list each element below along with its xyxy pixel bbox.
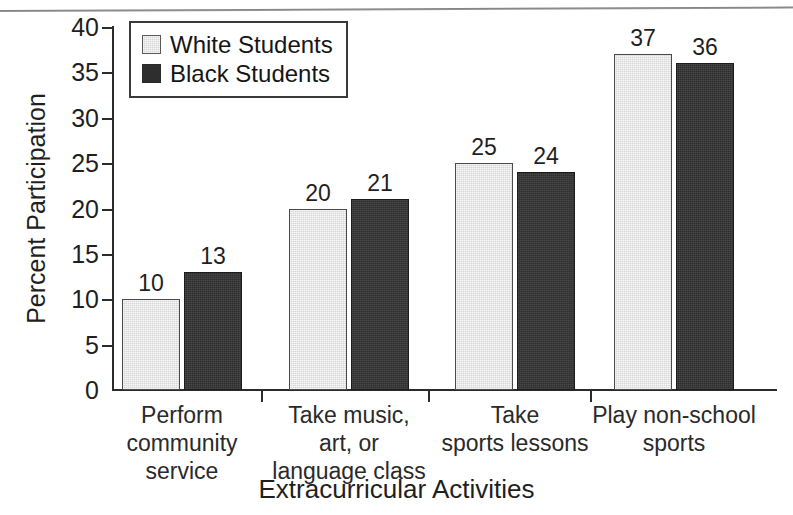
bar-black-group-2: 21 [351,199,409,390]
bar-black-group-4: 36 [676,63,734,390]
y-tick-label-40: 40 [71,15,99,40]
y-tick-label-35: 35 [71,60,99,85]
y-tick-mark-30 [102,118,113,120]
y-tick-label-5: 5 [85,332,99,357]
legend-item-black-students: Black Students [142,59,333,88]
y-tick-label-15: 15 [71,241,99,266]
bar-value-label: 24 [533,145,559,168]
y-tick-label-30: 30 [71,105,99,130]
bar-value-label: 20 [305,182,331,205]
category-label-4: Play non-schoolsports [569,401,779,457]
y-tick-label-10: 10 [71,287,99,312]
bar-value-label: 10 [138,272,164,295]
category-label-line: Play non-school [569,401,779,429]
y-tick-label-0: 0 [85,378,99,403]
bar-value-label: 36 [692,36,718,59]
black-students-swatch [142,64,161,83]
y-tick-mark-15 [102,254,113,256]
legend-label-white-students: White Students [170,33,333,57]
y-tick-mark-10 [102,299,113,301]
y-tick-label-20: 20 [71,196,99,221]
y-tick-label-25: 25 [71,151,99,176]
bar-chart-figure: Percent Participation 0510152025303540 1… [0,0,793,515]
x-axis-title: Extracurricular Activities [0,474,793,505]
bar-white-group-4: 37 [614,54,672,390]
bar-value-label: 13 [200,245,226,268]
scan-artifact-line [0,7,793,12]
chart-legend: White Students Black Students [129,21,348,98]
y-tick-mark-20 [102,209,113,211]
white-students-swatch [142,35,161,54]
bar-white-group-2: 20 [289,209,347,391]
y-axis-title: Percent Participation [14,27,58,390]
category-label-line: sports [569,429,779,457]
legend-item-white-students: White Students [142,30,333,59]
bar-black-group-3: 24 [517,172,575,390]
bar-white-group-3: 25 [455,163,513,390]
y-tick-mark-40 [102,27,113,29]
legend-label-black-students: Black Students [170,62,330,86]
bar-value-label: 37 [630,27,656,50]
bar-black-group-1: 13 [184,272,242,390]
bar-value-label: 25 [471,136,497,159]
y-tick-mark-5 [102,345,113,347]
bar-white-group-1: 10 [122,299,180,390]
bar-value-label: 21 [367,172,393,195]
y-tick-mark-35 [102,72,113,74]
y-tick-mark-25 [102,163,113,165]
